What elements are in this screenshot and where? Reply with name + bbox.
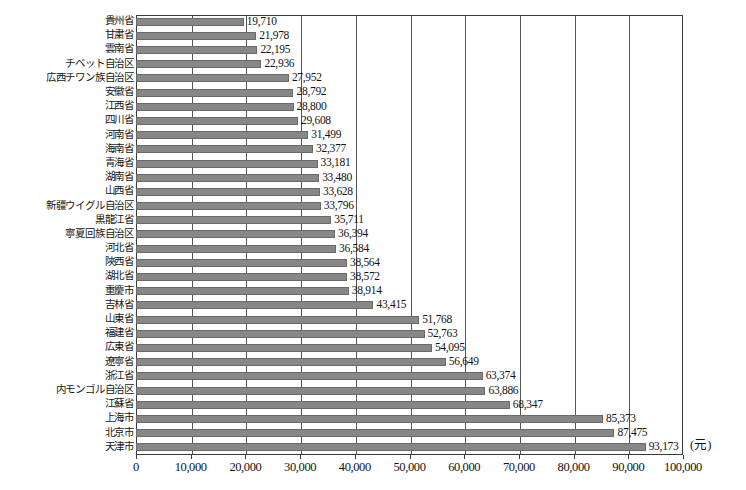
category-label: 四川省 xyxy=(0,114,134,126)
bar xyxy=(136,46,257,54)
bar xyxy=(136,160,318,168)
bar-row: 四川省29,608 xyxy=(0,114,746,128)
x-tick-mark xyxy=(574,455,575,459)
category-label: 雲南省 xyxy=(0,43,134,55)
bar-row: 北京市87,475 xyxy=(0,427,746,441)
bar-row: 貴州省19,710 xyxy=(0,15,746,29)
category-label: 広東省 xyxy=(0,341,134,353)
bar-value-label: 52,763 xyxy=(428,327,458,340)
category-label: 湖南省 xyxy=(0,171,134,183)
bar xyxy=(136,32,256,40)
bar-row: 甘粛省21,978 xyxy=(0,29,746,43)
bar xyxy=(136,89,293,97)
x-tick-label: 70,000 xyxy=(503,460,535,475)
x-tick-mark xyxy=(136,455,137,459)
category-label: 北京市 xyxy=(0,427,134,439)
bar xyxy=(136,131,308,139)
bar xyxy=(136,74,289,82)
bar xyxy=(136,245,336,253)
bar-row: 広東省54,095 xyxy=(0,341,746,355)
category-label: 青海省 xyxy=(0,157,134,169)
bar xyxy=(136,60,261,68)
bar xyxy=(136,316,419,324)
category-label: 寧夏回族自治区 xyxy=(0,228,134,240)
category-label: 甘粛省 xyxy=(0,29,134,41)
bar-row: 広西チワン族自治区27,952 xyxy=(0,72,746,86)
bar-value-label: 29,608 xyxy=(301,114,331,127)
category-label: 吉林省 xyxy=(0,299,134,311)
bar-row: 重慶市38,914 xyxy=(0,285,746,299)
bar xyxy=(136,145,313,153)
bar xyxy=(136,372,483,380)
x-tick-label: 100,000 xyxy=(664,460,702,475)
bar-value-label: 33,796 xyxy=(324,199,354,212)
bar-row: 遼寧省56,649 xyxy=(0,356,746,370)
bar xyxy=(136,259,347,267)
bar-value-label: 63,374 xyxy=(486,369,516,382)
category-label: 重慶市 xyxy=(0,285,134,297)
bar-row: 青海省33,181 xyxy=(0,157,746,171)
category-label: 遼寧省 xyxy=(0,356,134,368)
category-label: 河南省 xyxy=(0,129,134,141)
bar-value-label: 87,475 xyxy=(617,426,647,439)
bar-value-label: 85,373 xyxy=(606,412,636,425)
bar-row: 江西省28,800 xyxy=(0,100,746,114)
category-label: 貴州省 xyxy=(0,15,134,27)
bar-row: 安徽省28,792 xyxy=(0,86,746,100)
bar-row: 山東省51,768 xyxy=(0,313,746,327)
bar-row: 黒龍江省35,711 xyxy=(0,214,746,228)
bar xyxy=(136,18,244,26)
category-label: 内モンゴル自治区 xyxy=(0,384,134,396)
bar xyxy=(136,273,347,281)
category-label: 陝西省 xyxy=(0,256,134,268)
bar-value-label: 22,936 xyxy=(264,57,294,70)
bar-row: 上海市85,373 xyxy=(0,412,746,426)
x-tick-label: 20,000 xyxy=(229,460,261,475)
bar-value-label: 51,768 xyxy=(422,313,452,326)
category-label: 山東省 xyxy=(0,313,134,325)
category-label: 江西省 xyxy=(0,100,134,112)
bar-value-label: 36,584 xyxy=(339,242,369,255)
category-label: 江蘇省 xyxy=(0,398,134,410)
bar-row: 河南省31,499 xyxy=(0,129,746,143)
bar-value-label: 38,914 xyxy=(352,284,382,297)
bar xyxy=(136,344,432,352)
x-tick-label: 50,000 xyxy=(394,460,426,475)
x-tick-mark xyxy=(245,455,246,459)
bar-value-label: 32,377 xyxy=(316,142,346,155)
bar-value-label: 63,886 xyxy=(488,384,518,397)
bar-value-label: 38,572 xyxy=(350,270,380,283)
bar-row: 内モンゴル自治区63,886 xyxy=(0,384,746,398)
bar xyxy=(136,117,298,125)
bar-value-label: 38,564 xyxy=(350,256,380,269)
x-tick-mark xyxy=(519,455,520,459)
bar-row: 天津市93,173 xyxy=(0,441,746,455)
category-label: チベット自治区 xyxy=(0,58,134,70)
x-tick-mark xyxy=(683,455,684,459)
x-tick-mark xyxy=(410,455,411,459)
bar-row: 陝西省38,564 xyxy=(0,256,746,270)
bar-row: チベット自治区22,936 xyxy=(0,58,746,72)
x-tick-mark xyxy=(628,455,629,459)
x-tick-label: 0 xyxy=(133,460,139,475)
bar-chart: 貴州省19,710甘粛省21,978雲南省22,195チベット自治区22,936… xyxy=(0,0,746,490)
x-tick-mark xyxy=(355,455,356,459)
x-tick-label: 10,000 xyxy=(175,460,207,475)
category-label: 浙江省 xyxy=(0,370,134,382)
bar-row: 浙江省63,374 xyxy=(0,370,746,384)
x-tick-mark xyxy=(191,455,192,459)
x-tick-label: 90,000 xyxy=(612,460,644,475)
axis-unit-label: (元) xyxy=(690,434,711,453)
bar-value-label: 68,347 xyxy=(513,398,543,411)
category-label: 山西省 xyxy=(0,185,134,197)
x-tick-label: 80,000 xyxy=(558,460,590,475)
bar-value-label: 54,095 xyxy=(435,341,465,354)
category-label: 河北省 xyxy=(0,242,134,254)
category-label: 安徽省 xyxy=(0,86,134,98)
bar xyxy=(136,287,349,295)
category-label: 広西チワン族自治区 xyxy=(0,72,134,84)
bar-row: 江蘇省68,347 xyxy=(0,398,746,412)
bar xyxy=(136,216,331,224)
bar-row: 湖南省33,480 xyxy=(0,171,746,185)
bar-row: 新疆ウイグル自治区33,796 xyxy=(0,200,746,214)
